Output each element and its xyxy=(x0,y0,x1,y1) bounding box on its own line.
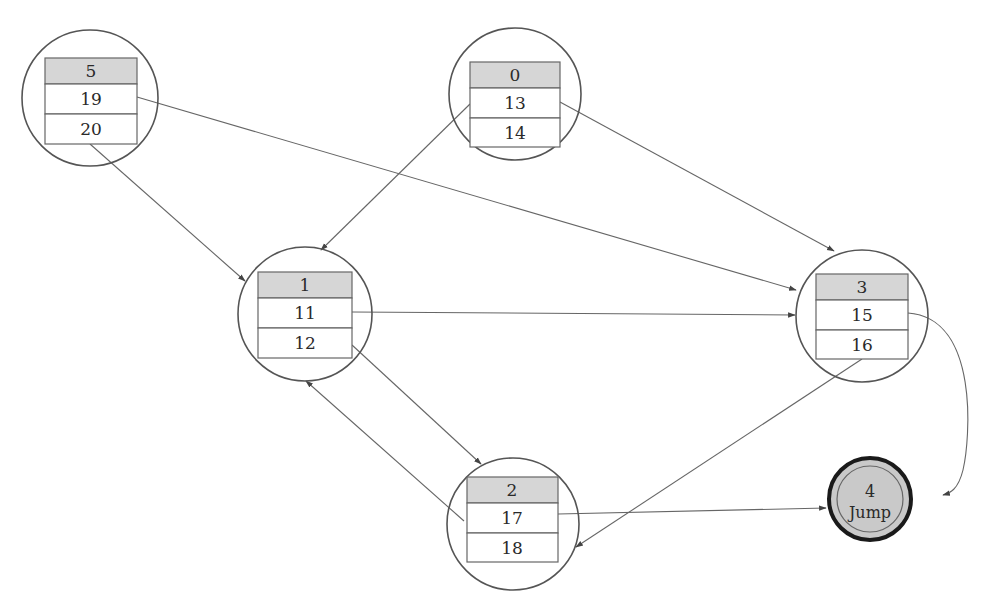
node-2-row-2: 18 xyxy=(501,538,523,558)
node-3-row-2: 16 xyxy=(851,335,873,355)
edge-5-19-to-3 xyxy=(137,97,796,290)
node-0-header-label: 0 xyxy=(510,65,521,85)
state-node-5: 5 19 20 xyxy=(22,30,158,166)
final-node-label: Jump xyxy=(847,503,891,522)
node-1-row-2: 12 xyxy=(294,333,316,353)
edge-3-15-to-4 xyxy=(908,313,968,495)
node-1-row-1: 11 xyxy=(294,303,316,323)
state-node-0: 0 13 14 xyxy=(449,28,581,160)
node-5-row-2: 20 xyxy=(80,119,102,139)
edge-2-17-to-4 xyxy=(558,508,826,514)
edge-2-18-to-1 xyxy=(306,381,464,521)
final-state-node-4: 4 Jump xyxy=(829,458,911,540)
final-node-number: 4 xyxy=(865,482,875,501)
node-3-header-label: 3 xyxy=(857,277,868,297)
node-2-row-1: 17 xyxy=(501,508,523,528)
node-5-row-1: 19 xyxy=(80,89,102,109)
edge-0-13-to-3 xyxy=(560,102,834,251)
node-0-row-1: 13 xyxy=(504,93,526,113)
edge-1-11-to-3 xyxy=(352,312,795,315)
edge-1-12-to-2 xyxy=(352,345,481,464)
edge-3-16-to-2 xyxy=(576,359,862,547)
state-node-2: 2 17 18 xyxy=(447,458,579,590)
edge-0-13-to-1 xyxy=(321,104,470,250)
node-2-header-label: 2 xyxy=(507,480,518,500)
node-1-header-label: 1 xyxy=(300,275,311,295)
node-0-row-2: 14 xyxy=(504,123,526,143)
state-diagram: 5 19 20 0 13 14 1 11 12 3 15 16 xyxy=(0,0,992,605)
state-node-3: 3 15 16 xyxy=(796,250,928,382)
node-5-header-label: 5 xyxy=(86,61,97,81)
state-node-1: 1 11 12 xyxy=(238,247,372,381)
node-3-row-1: 15 xyxy=(851,305,873,325)
edge-5-20-to-1 xyxy=(90,144,245,281)
